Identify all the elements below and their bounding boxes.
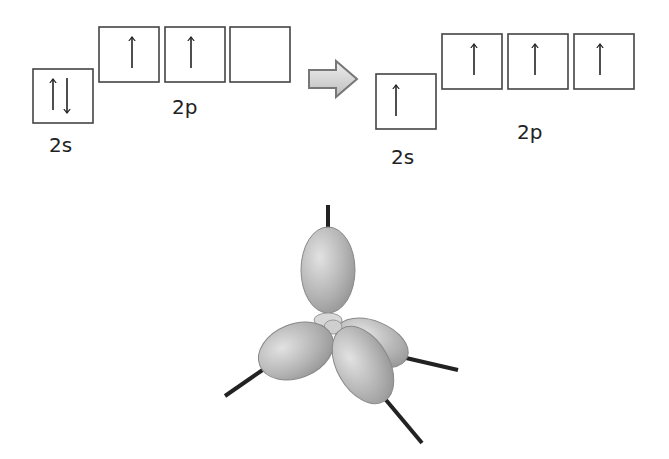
- ground-2p-label: 2p: [172, 95, 197, 119]
- bond-stick-bottom: [386, 400, 422, 443]
- excited-2s-label: 2s: [391, 145, 414, 169]
- right-arrow-icon: [309, 61, 357, 97]
- excited-2p-box-2: [508, 34, 568, 89]
- ground-2s-box: [33, 69, 93, 123]
- hybrid-lobe-top: [301, 227, 355, 313]
- bond-stick-right: [406, 358, 458, 370]
- hybrid-orbital-model: [225, 205, 458, 443]
- bond-stick-left: [225, 369, 264, 396]
- excited-2p-label: 2p: [517, 120, 542, 144]
- excited-2p-box-1: [442, 34, 502, 89]
- ground-state: 2s 2p: [33, 27, 290, 157]
- ground-2s-label: 2s: [49, 133, 72, 157]
- ground-2p-box-1: [99, 27, 159, 82]
- orbital-diagram: 2s 2p 2s: [0, 0, 669, 459]
- ground-2p-box-3: [230, 27, 290, 82]
- excited-2p-box-3: [574, 34, 634, 89]
- ground-2p-box-2: [165, 27, 225, 82]
- excited-state: 2s 2p: [376, 34, 634, 169]
- excited-2s-box: [376, 74, 436, 129]
